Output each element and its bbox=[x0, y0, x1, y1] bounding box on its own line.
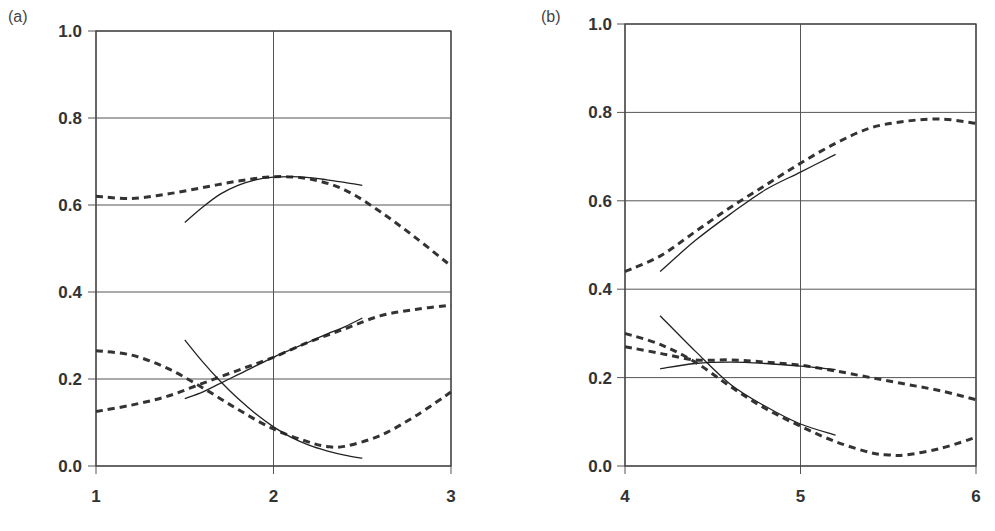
x-tick-label: 5 bbox=[796, 487, 805, 506]
series-line-solid-upper bbox=[660, 154, 836, 271]
x-tick-label: 6 bbox=[971, 487, 980, 506]
series-line-solid-falling bbox=[660, 316, 836, 435]
y-tick-label: 1.0 bbox=[588, 15, 612, 34]
y-tick-label: 0.4 bbox=[588, 280, 612, 299]
panel-a-chart: (a)0.00.20.40.60.81.0123 bbox=[8, 8, 456, 506]
panel-label: (a) bbox=[8, 8, 28, 25]
figure: (a)0.00.20.40.60.81.0123 (b)0.00.20.40.6… bbox=[0, 0, 995, 531]
y-tick-label: 0.0 bbox=[58, 457, 82, 476]
panel-label: (b) bbox=[541, 8, 561, 25]
y-tick-label: 0.2 bbox=[588, 369, 612, 388]
y-tick-label: 1.0 bbox=[58, 22, 82, 41]
panel-b-chart: (b)0.00.20.40.60.81.0456 bbox=[541, 8, 981, 506]
y-tick-label: 0.8 bbox=[58, 109, 82, 128]
x-tick-label: 4 bbox=[620, 487, 630, 506]
y-tick-label: 0.0 bbox=[588, 457, 612, 476]
x-tick-label: 3 bbox=[446, 487, 455, 506]
x-tick-label: 2 bbox=[269, 487, 278, 506]
y-tick-label: 0.2 bbox=[58, 370, 82, 389]
y-tick-label: 0.6 bbox=[58, 196, 82, 215]
y-tick-label: 0.6 bbox=[588, 192, 612, 211]
x-tick-label: 1 bbox=[91, 487, 100, 506]
y-tick-label: 0.8 bbox=[588, 103, 612, 122]
y-tick-label: 0.4 bbox=[58, 283, 82, 302]
